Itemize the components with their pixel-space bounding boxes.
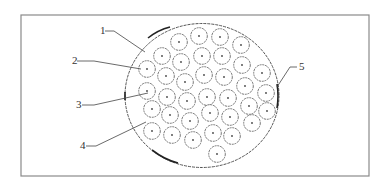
strand bbox=[171, 34, 188, 51]
sheath-thick-arc-right bbox=[277, 84, 278, 108]
strand bbox=[194, 48, 211, 65]
strand-core-dot bbox=[198, 35, 200, 37]
strand bbox=[139, 83, 156, 100]
strand-core-dot bbox=[265, 92, 267, 94]
strand-core-dot bbox=[146, 90, 148, 92]
strand-core-dot bbox=[227, 97, 229, 99]
strand-core-dot bbox=[223, 76, 225, 78]
strand-core-dot bbox=[171, 134, 173, 136]
strand bbox=[199, 89, 216, 106]
strand-core-dot bbox=[206, 96, 208, 98]
strand-core-dot bbox=[209, 112, 211, 114]
strand bbox=[259, 103, 276, 120]
strand bbox=[237, 78, 254, 95]
callout-label: 1 bbox=[100, 24, 106, 36]
strand bbox=[177, 74, 194, 91]
strand-core-dot bbox=[166, 96, 168, 98]
strand bbox=[214, 48, 231, 65]
strand bbox=[212, 29, 229, 46]
strand-core-dot bbox=[266, 110, 268, 112]
strand-core-dot bbox=[151, 130, 153, 132]
strand bbox=[154, 48, 171, 65]
strand-core-dot bbox=[219, 36, 221, 38]
strand bbox=[220, 90, 237, 107]
strand bbox=[185, 132, 202, 149]
strand bbox=[173, 54, 190, 71]
strand bbox=[233, 37, 250, 54]
leader-line bbox=[277, 67, 297, 87]
strand-core-dot bbox=[231, 135, 233, 137]
leader-line bbox=[82, 93, 148, 105]
strand bbox=[254, 65, 271, 82]
strand-core-dot bbox=[212, 132, 214, 134]
strand-core-dot bbox=[251, 122, 253, 124]
strand-core-dot bbox=[229, 116, 231, 118]
strand bbox=[241, 98, 258, 115]
strand bbox=[258, 85, 275, 102]
strand bbox=[209, 146, 226, 163]
sheath-thick-arc-bottom bbox=[152, 150, 178, 163]
callout-label: 5 bbox=[299, 60, 305, 72]
strand bbox=[158, 68, 175, 85]
callout-label: 3 bbox=[76, 98, 82, 110]
strand-core-dot bbox=[186, 100, 188, 102]
strand bbox=[139, 61, 156, 78]
strand-core-dot bbox=[146, 68, 148, 70]
strand-core-dot bbox=[151, 108, 153, 110]
strand bbox=[224, 128, 241, 145]
cable-cross-section-figure: 12345 bbox=[0, 0, 389, 189]
strand-core-dot bbox=[165, 75, 167, 77]
strand bbox=[222, 109, 239, 126]
strand bbox=[216, 69, 233, 86]
strand-core-dot bbox=[189, 120, 191, 122]
strand-core-dot bbox=[178, 41, 180, 43]
strand bbox=[234, 57, 251, 74]
callout-label: 4 bbox=[80, 139, 86, 151]
strand-core-dot bbox=[184, 81, 186, 83]
strand bbox=[144, 123, 161, 140]
callout-label: 2 bbox=[72, 54, 78, 66]
strand bbox=[182, 113, 199, 130]
strand bbox=[162, 107, 179, 124]
strand-core-dot bbox=[261, 72, 263, 74]
strand bbox=[144, 101, 161, 118]
strand bbox=[191, 28, 208, 45]
strand-core-dot bbox=[180, 61, 182, 63]
conductor-strands bbox=[139, 28, 276, 163]
strand bbox=[159, 89, 176, 106]
strand-core-dot bbox=[241, 64, 243, 66]
strand bbox=[244, 115, 261, 132]
strand-core-dot bbox=[216, 153, 218, 155]
strand bbox=[179, 93, 196, 110]
strand-core-dot bbox=[161, 55, 163, 57]
strand-core-dot bbox=[248, 105, 250, 107]
strand-core-dot bbox=[201, 55, 203, 57]
strand-core-dot bbox=[169, 114, 171, 116]
strand-core-dot bbox=[203, 74, 205, 76]
leader-line bbox=[105, 31, 145, 52]
strand-core-dot bbox=[192, 139, 194, 141]
strand bbox=[202, 105, 219, 122]
strand bbox=[164, 127, 181, 144]
strand bbox=[196, 67, 213, 84]
strand-core-dot bbox=[221, 55, 223, 57]
strand bbox=[205, 125, 222, 142]
strand-core-dot bbox=[244, 85, 246, 87]
strand-core-dot bbox=[240, 44, 242, 46]
